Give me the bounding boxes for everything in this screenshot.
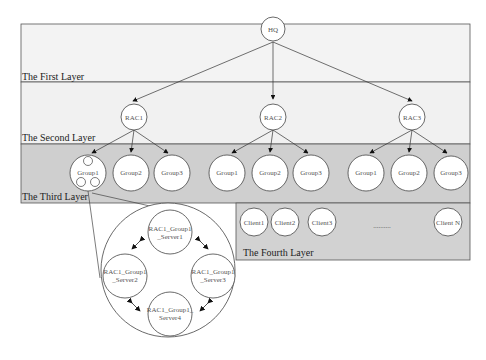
svg-text:Group3: Group3 xyxy=(161,169,183,177)
svg-text:Group1: Group1 xyxy=(355,169,377,177)
rac3-group2-node: Group2 xyxy=(391,155,427,191)
rac2-group2-node: Group2 xyxy=(252,155,288,191)
clients-ellipsis: .......... xyxy=(373,222,391,230)
rac3-group1-node: Group1 xyxy=(348,155,384,191)
client-node-2: Client2 xyxy=(271,208,299,236)
svg-text:Client N: Client N xyxy=(436,219,460,227)
rac3-group3-node: Group3 xyxy=(434,156,468,190)
svg-text:HQ: HQ xyxy=(268,26,278,34)
svg-text:Server4: Server4 xyxy=(159,314,181,322)
svg-text:Group2: Group2 xyxy=(120,169,142,177)
svg-text:Client2: Client2 xyxy=(275,219,296,227)
svg-text:RAC1_Group1: RAC1_Group1 xyxy=(149,225,192,233)
svg-text:_Server1: _Server1 xyxy=(156,233,183,241)
client-node-n: Client N xyxy=(434,208,462,236)
rac1-group3-node: Group3 xyxy=(154,155,190,191)
rac2-group3-node: Group3 xyxy=(293,155,329,191)
svg-text:RAC1_Group1: RAC1_Group1 xyxy=(104,268,147,276)
svg-text:RAC2: RAC2 xyxy=(264,114,282,122)
svg-text:Client3: Client3 xyxy=(312,219,333,227)
svg-text:_Server2: _Server2 xyxy=(111,276,138,284)
rac2-group1-node: Group1 xyxy=(209,155,245,191)
svg-text:Group2: Group2 xyxy=(259,169,281,177)
svg-text:_Server3: _Server3 xyxy=(199,276,226,284)
svg-text:Group1: Group1 xyxy=(77,169,99,177)
svg-text:RAC3: RAC3 xyxy=(403,114,421,122)
svg-text:Group2: Group2 xyxy=(398,169,420,177)
server-node-1: RAC1_Group1 _Server1 xyxy=(148,210,192,254)
svg-text:RAC1_Group1_: RAC1_Group1_ xyxy=(147,306,194,314)
svg-text:Group1: Group1 xyxy=(216,169,238,177)
first-layer-band xyxy=(21,24,470,82)
svg-text:Group3: Group3 xyxy=(300,169,322,177)
client-node-3: Client3 xyxy=(308,208,336,236)
third-layer-label: The Third Layer xyxy=(22,191,89,202)
rac-node-1: RAC1 xyxy=(121,104,147,130)
architecture-diagram: The First Layer The Second Layer The Thi… xyxy=(0,0,486,360)
server-node-3: RAC1_Group1 _Server3 xyxy=(191,254,235,298)
expanded-group-detail: RAC1_Group1 _Server1 RAC1_Group1 _Server… xyxy=(101,203,235,337)
rac1-group1-node: Group1 xyxy=(70,155,106,191)
rac1-group2-node: Group2 xyxy=(113,155,149,191)
second-layer-label: The Second Layer xyxy=(22,132,96,143)
hq-node: HQ xyxy=(261,17,285,41)
rac-node-2: RAC2 xyxy=(260,104,286,130)
group-nodes: Group1 Group2 Group3 Group1 Group2 Group… xyxy=(70,155,468,191)
svg-text:Client1: Client1 xyxy=(244,219,265,227)
server-node-2: RAC1_Group1 _Server2 xyxy=(103,254,147,298)
svg-text:RAC1_Group1: RAC1_Group1 xyxy=(192,268,235,276)
fourth-layer-label: The Fourth Layer xyxy=(243,247,314,258)
svg-text:RAC1: RAC1 xyxy=(125,114,143,122)
client-node-1: Client1 xyxy=(240,208,268,236)
first-layer-label: The First Layer xyxy=(22,71,85,82)
svg-text:Group3: Group3 xyxy=(440,169,462,177)
rac-node-3: RAC3 xyxy=(399,104,425,130)
